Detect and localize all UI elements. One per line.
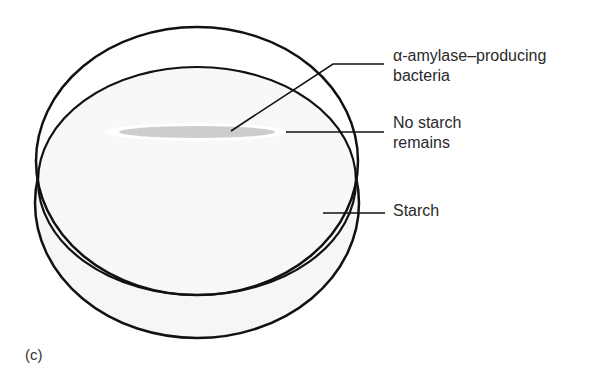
panel-label: (c) [25, 346, 43, 363]
bacteria-label-line1: α-amylase–producing [393, 46, 546, 66]
no-starch-label-line2: remains [393, 133, 461, 153]
no-starch-label: No starch remains [393, 113, 461, 153]
starch-label: Starch [393, 201, 439, 221]
bacteria-label: α-amylase–producing bacteria [393, 46, 546, 86]
bacteria-label-line2: bacteria [393, 66, 546, 86]
agar-surface [38, 67, 356, 295]
bacteria-colony [119, 126, 275, 138]
no-starch-label-line1: No starch [393, 113, 461, 133]
